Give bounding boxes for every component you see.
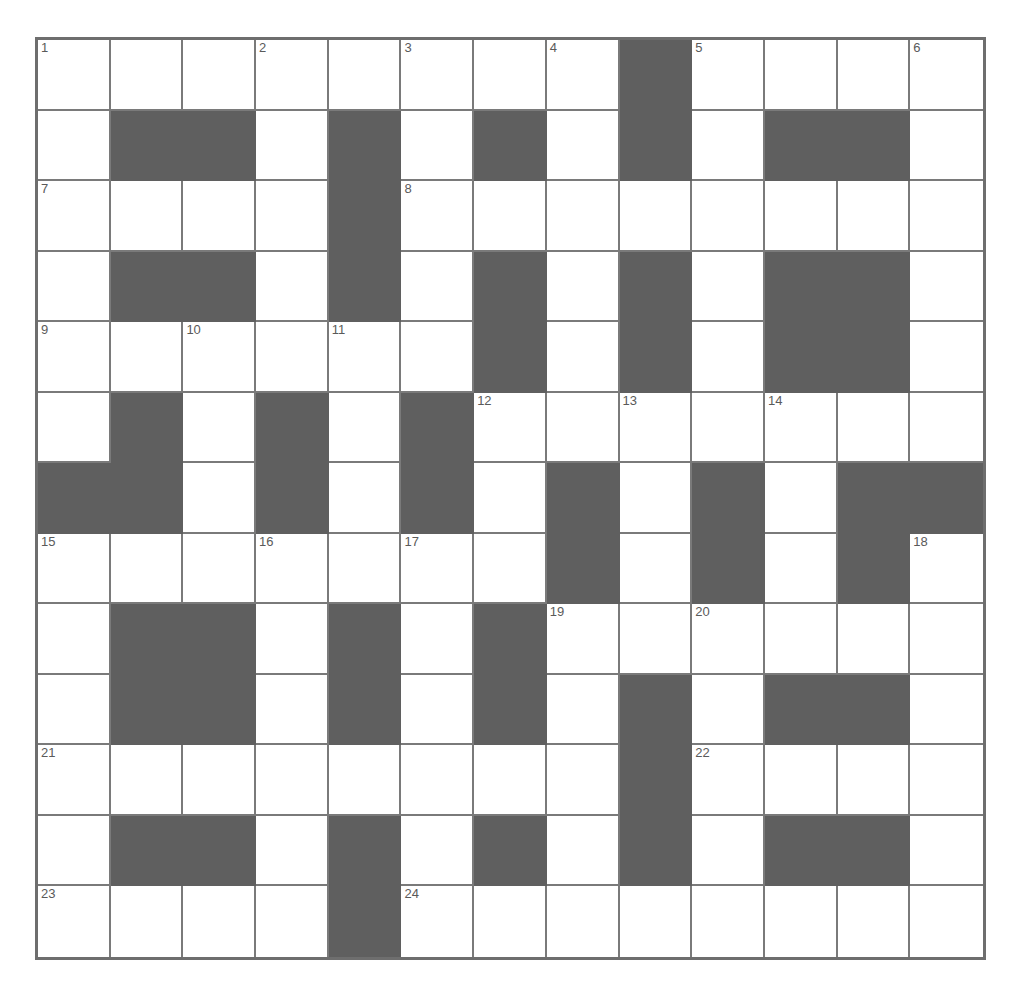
crossword-cell[interactable]: 16 <box>256 534 329 605</box>
crossword-cell[interactable] <box>401 252 474 323</box>
crossword-cell[interactable] <box>256 675 329 746</box>
crossword-cell[interactable] <box>620 463 693 534</box>
crossword-cell[interactable] <box>910 604 983 675</box>
crossword-cell[interactable] <box>620 604 693 675</box>
crossword-cell[interactable] <box>692 886 765 957</box>
crossword-cell[interactable] <box>183 181 256 252</box>
crossword-cell[interactable]: 3 <box>401 40 474 111</box>
crossword-cell[interactable] <box>910 322 983 393</box>
crossword-cell[interactable]: 13 <box>620 393 693 464</box>
crossword-cell[interactable] <box>38 393 111 464</box>
crossword-cell[interactable] <box>256 886 329 957</box>
crossword-cell[interactable] <box>111 181 184 252</box>
crossword-cell[interactable] <box>547 393 620 464</box>
crossword-cell[interactable] <box>474 886 547 957</box>
crossword-cell[interactable]: 11 <box>329 322 402 393</box>
crossword-cell[interactable] <box>765 463 838 534</box>
crossword-cell[interactable] <box>183 886 256 957</box>
crossword-cell[interactable] <box>38 675 111 746</box>
crossword-cell[interactable] <box>692 181 765 252</box>
crossword-cell[interactable] <box>474 40 547 111</box>
crossword-cell[interactable]: 6 <box>910 40 983 111</box>
crossword-cell[interactable] <box>547 675 620 746</box>
crossword-cell[interactable]: 18 <box>910 534 983 605</box>
crossword-cell[interactable] <box>910 181 983 252</box>
crossword-cell[interactable] <box>692 252 765 323</box>
crossword-cell[interactable] <box>692 111 765 182</box>
crossword-cell[interactable] <box>910 393 983 464</box>
crossword-cell[interactable] <box>547 816 620 887</box>
crossword-cell[interactable] <box>111 745 184 816</box>
crossword-cell[interactable] <box>910 252 983 323</box>
crossword-cell[interactable] <box>38 252 111 323</box>
crossword-cell[interactable]: 7 <box>38 181 111 252</box>
crossword-cell[interactable] <box>183 40 256 111</box>
crossword-cell[interactable] <box>111 322 184 393</box>
crossword-cell[interactable]: 24 <box>401 886 474 957</box>
crossword-cell[interactable] <box>401 745 474 816</box>
crossword-cell[interactable] <box>620 534 693 605</box>
crossword-cell[interactable] <box>547 181 620 252</box>
crossword-cell[interactable] <box>329 745 402 816</box>
crossword-cell[interactable]: 12 <box>474 393 547 464</box>
crossword-cell[interactable] <box>547 745 620 816</box>
crossword-cell[interactable] <box>474 534 547 605</box>
crossword-cell[interactable] <box>183 745 256 816</box>
crossword-cell[interactable] <box>111 534 184 605</box>
crossword-cell[interactable] <box>765 604 838 675</box>
crossword-cell[interactable] <box>838 745 911 816</box>
crossword-cell[interactable] <box>256 745 329 816</box>
crossword-cell[interactable] <box>256 111 329 182</box>
crossword-cell[interactable] <box>474 745 547 816</box>
crossword-cell[interactable]: 21 <box>38 745 111 816</box>
crossword-cell[interactable] <box>765 181 838 252</box>
crossword-cell[interactable] <box>838 40 911 111</box>
crossword-cell[interactable] <box>401 111 474 182</box>
crossword-cell[interactable] <box>38 816 111 887</box>
crossword-cell[interactable] <box>111 886 184 957</box>
crossword-cell[interactable] <box>910 111 983 182</box>
crossword-cell[interactable] <box>692 393 765 464</box>
crossword-cell[interactable]: 4 <box>547 40 620 111</box>
crossword-cell[interactable] <box>256 252 329 323</box>
crossword-cell[interactable] <box>547 322 620 393</box>
crossword-cell[interactable] <box>183 463 256 534</box>
crossword-cell[interactable] <box>474 463 547 534</box>
crossword-cell[interactable] <box>329 393 402 464</box>
crossword-cell[interactable] <box>692 675 765 746</box>
crossword-cell[interactable]: 1 <box>38 40 111 111</box>
crossword-cell[interactable] <box>692 322 765 393</box>
crossword-cell[interactable] <box>329 40 402 111</box>
crossword-cell[interactable] <box>256 816 329 887</box>
crossword-cell[interactable] <box>329 463 402 534</box>
crossword-cell[interactable] <box>329 534 402 605</box>
crossword-cell[interactable] <box>401 816 474 887</box>
crossword-cell[interactable] <box>256 604 329 675</box>
crossword-cell[interactable]: 20 <box>692 604 765 675</box>
crossword-cell[interactable] <box>765 745 838 816</box>
crossword-cell[interactable] <box>111 40 184 111</box>
crossword-cell[interactable] <box>765 40 838 111</box>
crossword-cell[interactable] <box>620 886 693 957</box>
crossword-cell[interactable] <box>765 534 838 605</box>
crossword-cell[interactable] <box>838 886 911 957</box>
crossword-cell[interactable]: 17 <box>401 534 474 605</box>
crossword-cell[interactable]: 23 <box>38 886 111 957</box>
crossword-cell[interactable] <box>38 111 111 182</box>
crossword-cell[interactable] <box>38 604 111 675</box>
crossword-cell[interactable] <box>183 534 256 605</box>
crossword-cell[interactable]: 22 <box>692 745 765 816</box>
crossword-cell[interactable]: 15 <box>38 534 111 605</box>
crossword-cell[interactable] <box>547 252 620 323</box>
crossword-cell[interactable] <box>910 675 983 746</box>
crossword-cell[interactable] <box>838 393 911 464</box>
crossword-cell[interactable] <box>765 886 838 957</box>
crossword-cell[interactable] <box>256 322 329 393</box>
crossword-cell[interactable] <box>692 816 765 887</box>
crossword-cell[interactable] <box>838 181 911 252</box>
crossword-cell[interactable] <box>547 111 620 182</box>
crossword-cell[interactable]: 8 <box>401 181 474 252</box>
crossword-cell[interactable] <box>401 604 474 675</box>
crossword-cell[interactable] <box>910 886 983 957</box>
crossword-cell[interactable] <box>474 181 547 252</box>
